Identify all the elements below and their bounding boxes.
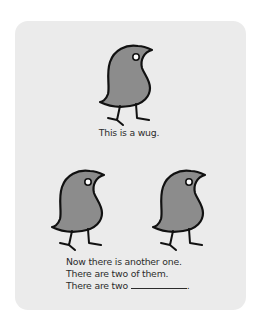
wug-bird-icon-right — [151, 167, 209, 253]
story-line-2: There are two of them. — [66, 268, 189, 280]
story-line-3: There are two . — [66, 280, 189, 292]
story-text: Now there is another one. There are two … — [66, 256, 189, 292]
wug-bird-icon — [98, 42, 156, 128]
wug-caption: This is a wug. — [0, 127, 258, 138]
wug-bird-icon-left — [50, 167, 108, 253]
answer-blank — [131, 280, 187, 289]
blank-period: . — [187, 280, 190, 291]
story-line-1: Now there is another one. — [66, 256, 189, 268]
story-line-3-text: There are two — [66, 280, 128, 291]
